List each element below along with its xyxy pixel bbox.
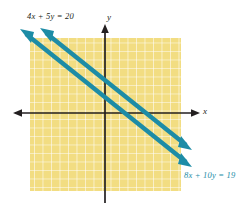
y-axis-label: y — [107, 12, 111, 22]
x-axis-label: x — [203, 106, 207, 116]
y-axis-top-arrowhead — [101, 24, 109, 33]
x-axis-right-arrowhead — [191, 109, 200, 117]
equation-label-line1: 4x + 5y = 20 — [27, 11, 74, 21]
equation-label-line2: 8x + 10y = 19 — [184, 170, 235, 180]
graph-figure: 4x + 5y = 20 8x + 10y = 19 y x — [0, 0, 250, 203]
x-axis-left-arrowhead — [13, 109, 22, 117]
